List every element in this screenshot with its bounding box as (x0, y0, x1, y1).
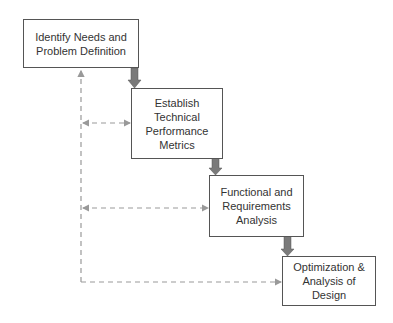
arrow-down-icon (128, 68, 141, 88)
step-optimization: Optimization & Analysis of Design (282, 256, 376, 306)
step-identify-needs: Identify Needs and Problem Definition (23, 19, 139, 68)
step-label: Optimization & Analysis of Design (284, 260, 374, 302)
step-establish-metrics: Establish Technical Performance Metrics (131, 88, 223, 159)
arrow-down-icon (209, 158, 222, 175)
step-functional-analysis: Functional and Requirements Analysis (209, 175, 304, 237)
step-label: Establish Technical Performance Metrics (141, 96, 213, 152)
arrow-down-icon (281, 236, 294, 256)
step-label: Functional and Requirements Analysis (215, 185, 299, 227)
step-label: Identify Needs and Problem Definition (31, 30, 131, 58)
